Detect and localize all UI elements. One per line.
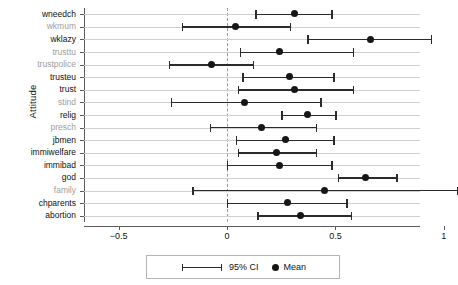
mean-marker[interactable] [208, 61, 215, 68]
ci-cap-low [257, 212, 258, 221]
y-axis-label-jbmen: jbmen [53, 136, 76, 145]
x-axis-tick [335, 226, 336, 230]
y-axis-label-immiwelfare: immiwelfare [31, 148, 76, 157]
mean-marker[interactable] [284, 199, 291, 206]
ci-cap-low [338, 174, 339, 183]
ci-cap-low [210, 124, 211, 133]
data-row[interactable] [84, 96, 420, 108]
data-row[interactable] [84, 71, 420, 83]
ci-cap-high [353, 48, 354, 57]
y-axis-label-immibad: immibad [44, 161, 76, 170]
y-axis-label-trusttu: trusttu [52, 48, 76, 57]
mean-marker[interactable] [321, 187, 328, 194]
mean-marker[interactable] [241, 99, 248, 106]
ci-cap-low [227, 199, 228, 208]
y-axis-label-chparents: chparents [39, 199, 76, 208]
y-axis-label-wkmum: wkmum [47, 22, 76, 31]
ci-cap-low [242, 73, 243, 82]
legend-item-ci: 95% CI [180, 262, 259, 272]
data-row[interactable] [84, 185, 420, 197]
ci-cap-high [353, 86, 354, 95]
y-axis-label-family: family [54, 186, 76, 195]
x-axis-tick [227, 226, 228, 230]
ci-cap-high [320, 98, 321, 107]
ci-cap-high [253, 61, 254, 70]
mean-marker[interactable] [297, 212, 304, 219]
mean-marker[interactable] [367, 36, 374, 43]
ci-cap-low [171, 98, 172, 107]
ci-cap-low [240, 48, 241, 57]
y-axis-labels: wneedchwkmumwklazytrusttutrustpolicetrus… [0, 8, 84, 222]
ci-cap-high [335, 111, 336, 120]
ci-cap-low [227, 161, 228, 170]
ci-cap-high [351, 212, 352, 221]
ci-cap-low [182, 23, 183, 32]
ci-cap-low [255, 10, 256, 19]
ci-cap-high [290, 23, 291, 32]
y-axis-label-abortion: abortion [45, 211, 76, 220]
y-axis-label-trust: trust [59, 85, 76, 94]
y-axis-label-presch: presch [50, 123, 76, 132]
y-axis-label-wneedch: wneedch [42, 10, 76, 19]
mean-marker[interactable] [282, 136, 289, 143]
x-axis-label-0: −0.5 [110, 231, 128, 241]
data-row[interactable] [84, 46, 420, 58]
ci-cap-high [346, 199, 347, 208]
ci-cap-low [192, 187, 193, 196]
data-row[interactable] [84, 134, 420, 146]
data-row[interactable] [84, 147, 420, 159]
chart-legend: 95% CI Mean [146, 255, 340, 279]
y-axis-label-relig: relig [60, 111, 76, 120]
mean-marker[interactable] [276, 48, 283, 55]
data-row[interactable] [84, 122, 420, 134]
data-row[interactable] [84, 197, 420, 209]
data-row[interactable] [84, 33, 420, 45]
y-axis-label-stind: stind [58, 98, 76, 107]
ci-cap-high [333, 136, 334, 145]
mean-marker[interactable] [273, 149, 280, 156]
mean-marker[interactable] [291, 10, 298, 17]
y-axis-label-trustpolice: trustpolice [37, 60, 76, 69]
x-axis-tick [444, 226, 445, 230]
ci-cap-low [238, 149, 239, 158]
data-row[interactable] [84, 8, 420, 20]
data-row[interactable] [84, 172, 420, 184]
ci-cap-low [169, 61, 170, 70]
mean-dot-icon [272, 264, 279, 271]
data-row[interactable] [84, 159, 420, 171]
legend-label-ci: 95% CI [229, 262, 259, 272]
ci-cap-low [236, 136, 237, 145]
y-axis-label-trusteu: trusteu [50, 73, 76, 82]
data-row[interactable] [84, 84, 420, 96]
data-row[interactable] [84, 210, 420, 222]
ci-cap-high [331, 10, 332, 19]
x-axis-label-1: 0 [225, 231, 230, 241]
mean-marker[interactable] [258, 124, 265, 131]
mean-marker[interactable] [276, 162, 283, 169]
mean-marker[interactable] [286, 73, 293, 80]
x-axis-label-3: 1 [441, 231, 446, 241]
ci-cap-high [316, 124, 317, 133]
plot-area [84, 8, 420, 222]
mean-marker[interactable] [304, 111, 311, 118]
data-row[interactable] [84, 109, 420, 121]
data-row[interactable] [84, 21, 420, 33]
mean-marker[interactable] [291, 86, 298, 93]
ci-bar [240, 52, 353, 53]
error-bar-icon [180, 263, 224, 272]
ci-cap-low [281, 111, 282, 120]
ci-cap-high [396, 174, 397, 183]
ci-cap-high [333, 73, 334, 82]
mean-marker[interactable] [362, 174, 369, 181]
ci-cap-low [307, 35, 308, 44]
data-row[interactable] [84, 59, 420, 71]
x-axis-line [84, 226, 420, 227]
legend-label-mean: Mean [284, 262, 307, 272]
x-axis-label-2: 0.5 [329, 231, 342, 241]
mean-marker[interactable] [232, 23, 239, 30]
ci-cap-low [238, 86, 239, 95]
y-axis-label-god: god [62, 173, 76, 182]
x-axis-tick [119, 226, 120, 230]
y-axis-label-wklazy: wklazy [50, 35, 76, 44]
